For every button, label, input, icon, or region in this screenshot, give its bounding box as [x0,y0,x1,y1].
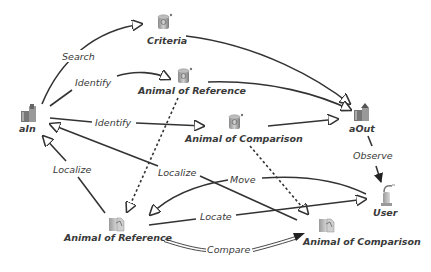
process-diagram: Search Identify Identify Observe Localiz… [0,0,431,272]
node-ain[interactable]: aIn [19,104,36,134]
edge-move[interactable]: Move [150,174,366,215]
edge-label-compare: Compare [207,244,250,255]
node-comparison-top[interactable]: Animal of Comparison [184,114,303,144]
edge-label-locate: Locate [200,211,232,222]
edge-label-identify-comparison: Identify [95,117,131,128]
edge-comparison-to-aout[interactable] [268,119,338,126]
edge-label-localize-left: Localize [53,164,91,175]
edge-observe[interactable]: Observe [353,136,393,182]
database-icon [229,114,243,129]
node-user[interactable]: User [373,185,399,218]
edge-localize-left[interactable]: Localize [43,136,105,213]
node-criteria[interactable]: Criteria [147,14,187,46]
edge-dashed-comparison[interactable] [250,146,308,214]
edge-label-localize-right: Localize [158,167,196,178]
node-label-criteria: Criteria [147,35,187,46]
edge-label-observe: Observe [353,150,393,161]
edge-dashed-reference[interactable] [127,98,178,212]
user-icon [381,185,395,206]
output-icon [354,103,369,121]
database-icon [158,14,172,29]
node-label-ain: aIn [19,123,36,134]
edge-label-search: Search [62,51,95,62]
node-label-comparison-top: Animal of Comparison [184,133,303,144]
node-comparison-bottom[interactable]: Animal of Comparison [302,219,421,247]
node-label-user: User [373,207,399,218]
document-icon [109,218,124,231]
input-icon [21,104,36,122]
node-label-aout: aOut [349,123,375,134]
node-label-reference-bottom: Animal of Reference [63,232,173,243]
document-icon [319,219,334,232]
edge-search[interactable]: Search [42,24,142,104]
node-reference-bottom[interactable]: Animal of Reference [63,218,173,243]
edge-compare[interactable]: Compare [164,233,305,255]
edge-identify-comparison[interactable]: Identify [50,117,204,128]
database-icon [178,68,192,83]
node-label-reference-top: Animal of Reference [137,85,247,96]
node-label-comparison-bottom: Animal of Comparison [302,236,421,247]
edge-label-move: Move [230,174,256,185]
edge-label-identify-reference: Identify [75,77,111,88]
node-aout[interactable]: aOut [349,103,375,134]
